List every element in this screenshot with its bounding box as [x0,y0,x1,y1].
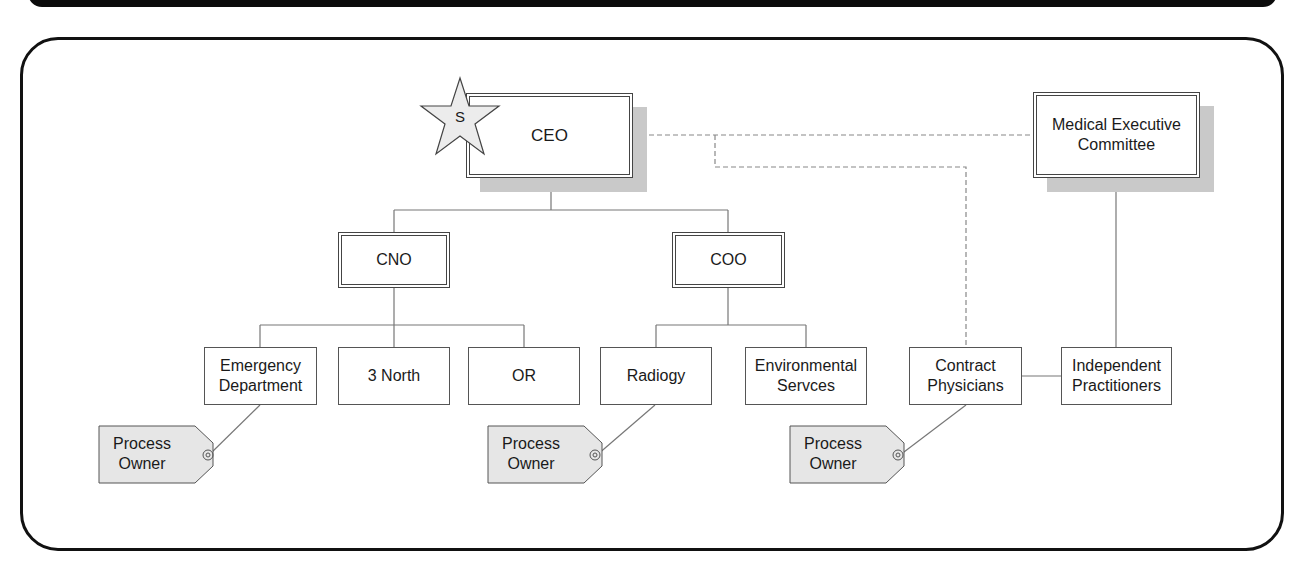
node-contract-label: Contract Physicians [916,356,1016,396]
node-or[interactable]: OR [468,347,580,405]
node-3-north-label: 3 North [368,366,420,386]
process-owner-tag[interactable]: Process Owner [789,425,905,484]
star-marker-label: S [455,108,465,125]
node-medical-executive-committee[interactable]: Medical Executive Committee [1033,92,1200,178]
process-owner-tag[interactable]: Process Owner [487,425,603,484]
tag-label: Process Owner [487,425,575,482]
node-contract-physicians[interactable]: Contract Physicians [909,347,1022,405]
node-ceo-label: CEO [531,126,568,146]
node-radiology-label: Radiogy [627,366,686,386]
node-independent-label: Independent Practitioners [1062,356,1171,396]
tag-label: Process Owner [98,425,186,482]
node-mec-label: Medical Executive Committee [1047,115,1187,155]
tag-label: Process Owner [789,425,877,482]
connector-lines [0,0,1305,584]
node-radiology[interactable]: Radiogy [600,347,712,405]
process-owner-tag[interactable]: Process Owner [98,425,214,484]
node-cno-label: CNO [376,250,412,270]
node-3-north[interactable]: 3 North [338,347,450,405]
node-or-label: OR [512,366,536,386]
node-emergency-department[interactable]: Emergency Department [204,347,317,405]
node-emergency-label: Emergency Department [211,356,311,396]
node-independent-practitioners[interactable]: Independent Practitioners [1061,347,1172,405]
node-coo[interactable]: COO [672,232,785,288]
node-environmental-services[interactable]: Environmental Servces [745,347,867,405]
node-cno[interactable]: CNO [338,232,450,288]
node-environmental-label: Environmental Servces [746,356,866,396]
node-coo-label: COO [710,250,746,270]
